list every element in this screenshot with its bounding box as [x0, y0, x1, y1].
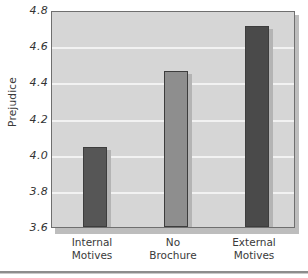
y-axis-tick-label: 3.6 [4, 221, 48, 234]
y-axis-tick-labels: 4.84.64.44.24.03.83.6 [0, 0, 48, 240]
x-axis-tick-label-line: External [209, 236, 299, 249]
x-axis-tick-label-line: Motives [209, 249, 299, 262]
y-axis-tick-label: 4.6 [4, 40, 48, 53]
x-axis-tick-label: ExternalMotives [209, 236, 299, 262]
bottom-rule-highlight [0, 273, 308, 274]
y-axis-tick-label: 4.0 [4, 149, 48, 162]
x-axis-tick-label-line: Brochure [128, 249, 218, 262]
x-axis-tick-label-line: Motives [47, 249, 137, 262]
x-axis-tick-label-line: Internal [47, 236, 137, 249]
bar-item[interactable] [245, 26, 273, 227]
x-axis-tick-label: NoBrochure [128, 236, 218, 262]
plot-area [51, 11, 295, 228]
x-axis-tick-label-line: No [128, 236, 218, 249]
y-axis-tick-label: 4.8 [4, 4, 48, 17]
y-axis-tick-label: 3.8 [4, 185, 48, 198]
x-axis-tick-labels: InternalMotivesNoBrochureExternalMotives [51, 236, 295, 274]
bar-item[interactable] [83, 147, 111, 227]
bar-item[interactable] [164, 71, 192, 227]
y-axis-tick-label: 4.4 [4, 76, 48, 89]
bar[interactable] [245, 26, 269, 227]
x-axis-tick-label: InternalMotives [47, 236, 137, 262]
bar[interactable] [83, 147, 107, 227]
bar-chart-figure: Prejudice 4.84.64.44.24.03.83.6 Internal… [0, 0, 308, 278]
y-axis-tick-label: 4.2 [4, 113, 48, 126]
bar[interactable] [164, 71, 188, 227]
